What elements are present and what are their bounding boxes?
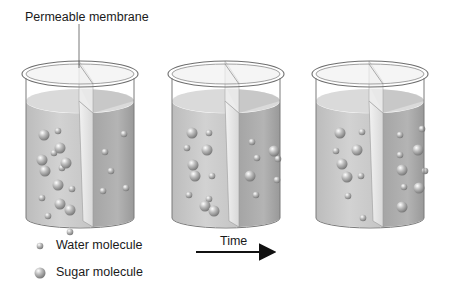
sugar-molecule bbox=[61, 158, 72, 169]
sugar-molecule bbox=[187, 128, 198, 139]
water-molecule bbox=[108, 168, 115, 175]
water-molecule bbox=[360, 215, 367, 222]
water-molecule bbox=[345, 193, 352, 200]
sugar-molecule bbox=[40, 166, 51, 177]
water-molecule bbox=[333, 148, 340, 155]
sugar-molecule bbox=[55, 199, 66, 210]
permeable-membrane-label: Permeable membrane bbox=[25, 10, 149, 24]
water-molecule bbox=[253, 192, 260, 199]
water-molecule bbox=[254, 155, 261, 162]
sugar-molecule bbox=[335, 128, 346, 139]
water-molecule bbox=[39, 195, 46, 202]
water-molecule bbox=[358, 173, 365, 180]
sugar-molecule bbox=[55, 143, 66, 154]
water-molecule bbox=[397, 152, 404, 159]
water-molecule bbox=[206, 130, 213, 137]
beaker-middle bbox=[168, 61, 284, 228]
sugar-molecule bbox=[39, 130, 50, 141]
sugar-molecule bbox=[397, 165, 408, 176]
sugar-molecule bbox=[190, 171, 201, 182]
water-molecule bbox=[397, 132, 404, 139]
sugar-molecule bbox=[53, 180, 64, 191]
right-solution bbox=[239, 101, 280, 227]
sugar-molecule bbox=[269, 146, 280, 157]
sugar-molecule bbox=[65, 205, 76, 216]
water-molecule bbox=[45, 213, 52, 220]
sugar-molecule bbox=[352, 145, 363, 156]
water-molecule bbox=[100, 188, 107, 195]
water-molecule bbox=[209, 173, 216, 180]
beaker-final bbox=[312, 61, 428, 228]
water-molecule bbox=[359, 129, 366, 136]
water-molecule bbox=[55, 128, 62, 135]
right-solution bbox=[93, 101, 134, 227]
sugar-molecule-legend-label: Sugar molecule bbox=[56, 265, 143, 279]
sugar-molecule bbox=[202, 145, 213, 156]
water-molecule-legend-icon bbox=[37, 243, 44, 250]
sugar-molecule bbox=[37, 155, 48, 166]
water-molecule bbox=[67, 229, 74, 236]
water-molecule bbox=[184, 145, 191, 152]
sugar-molecule bbox=[413, 145, 424, 156]
sugar-molecule bbox=[342, 172, 353, 183]
water-molecule bbox=[401, 184, 408, 191]
water-molecule bbox=[422, 168, 429, 175]
sugar-molecule-legend-icon bbox=[35, 268, 46, 279]
sugar-molecule bbox=[397, 202, 408, 213]
sugar-molecule bbox=[209, 206, 220, 217]
beaker-initial bbox=[22, 61, 138, 235]
water-molecule bbox=[249, 139, 256, 146]
time-label: Time bbox=[220, 234, 247, 248]
sugar-molecule bbox=[188, 160, 199, 171]
sugar-molecule bbox=[245, 171, 256, 182]
water-molecule bbox=[102, 149, 109, 156]
water-molecule bbox=[123, 185, 130, 192]
water-molecule bbox=[274, 177, 281, 184]
water-molecule bbox=[121, 131, 128, 138]
sugar-molecule bbox=[337, 159, 348, 170]
water-molecule bbox=[69, 186, 76, 193]
water-molecule-legend-label: Water molecule bbox=[56, 238, 142, 252]
sugar-molecule bbox=[414, 183, 425, 194]
water-molecule bbox=[186, 192, 193, 199]
